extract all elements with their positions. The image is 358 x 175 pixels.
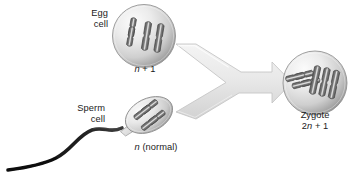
zygote-cell <box>283 51 347 115</box>
egg-cell-label: Egg cell <box>58 8 108 31</box>
merge-arrow-icon <box>176 44 292 119</box>
figure-canvas: Egg cell n + 1 Sperm cell n (normal) Zyg… <box>0 0 358 175</box>
zygote-label-name: Zygote <box>301 110 330 120</box>
zygote-label: Zygote 2n + 1 <box>281 110 349 133</box>
egg-cell <box>113 5 176 68</box>
egg-ploidy-label: n + 1 <box>118 64 172 75</box>
sperm-tail <box>8 127 122 170</box>
sperm-ploidy-suffix: (normal) <box>140 142 178 152</box>
egg-cell-label-line1: Egg <box>91 8 108 18</box>
sperm-cell-label: Sperm cell <box>48 103 105 126</box>
sperm-ploidy-label: n (normal) <box>118 142 194 153</box>
zygote-ploidy-suffix: + 1 <box>312 121 328 131</box>
egg-ploidy-suffix: + 1 <box>140 64 156 74</box>
sperm-cell <box>8 89 179 170</box>
sperm-cell-label-line2: cell <box>91 114 105 124</box>
sperm-cell-label-line1: Sperm <box>77 103 105 113</box>
egg-cell-label-line2: cell <box>94 19 108 29</box>
